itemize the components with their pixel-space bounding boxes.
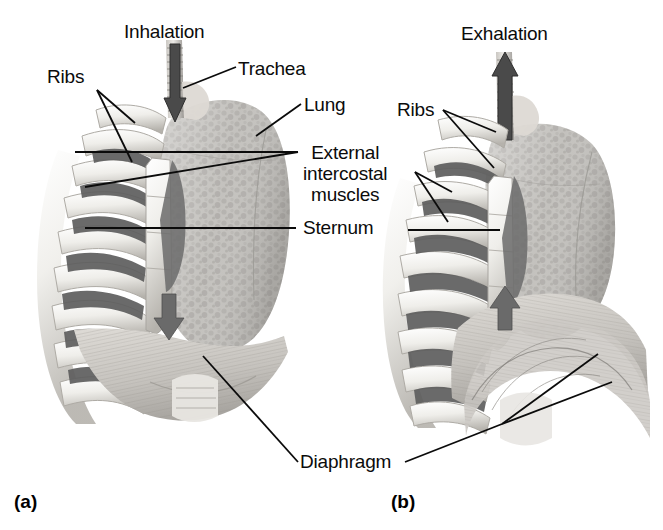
label-ribs-left: Ribs — [47, 66, 84, 87]
caption-panel-a: (a) — [14, 491, 37, 513]
label-inhalation: Inhalation — [124, 21, 204, 42]
caption-panel-b: (b) — [391, 491, 415, 513]
breathing-mechanics-figure: Inhalation Exhalation Ribs Trachea Lung … — [0, 0, 663, 530]
label-trachea: Trachea — [238, 58, 306, 79]
label-lung: Lung — [304, 94, 345, 115]
label-sternum: Sternum — [303, 217, 373, 238]
label-external-intercostal-muscles: External intercostal muscles — [303, 142, 387, 205]
label-diaphragm: Diaphragm — [300, 451, 391, 472]
label-exhalation: Exhalation — [461, 23, 548, 44]
label-ribs-right: Ribs — [397, 99, 434, 120]
